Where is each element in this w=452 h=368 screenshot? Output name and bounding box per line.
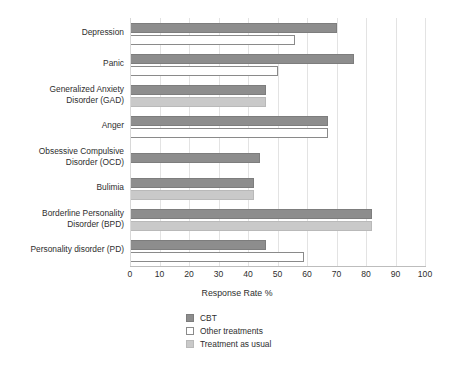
legend-label: CBT: [200, 313, 217, 323]
bar: [130, 35, 295, 45]
legend-swatch-icon: [186, 314, 194, 322]
category-label: Obsessive Compulsive Disorder (OCD): [0, 146, 124, 167]
x-tick-label: 90: [381, 269, 411, 280]
gridline-100: [425, 18, 426, 266]
category-label: Panic: [0, 58, 124, 68]
bar: [130, 240, 266, 250]
bar: [130, 178, 254, 188]
legend-label: Other treatments: [200, 326, 263, 336]
x-tick-label: 80: [351, 269, 381, 280]
x-tick-label: 60: [292, 269, 322, 280]
bar: [130, 23, 337, 33]
plot-wrapper: DepressionPanicGeneralized Anxiety Disor…: [0, 0, 452, 300]
legend-item[interactable]: Treatment as usual: [186, 337, 386, 350]
bar: [130, 209, 372, 219]
bar: [130, 116, 328, 126]
y-axis-line: [130, 18, 131, 266]
bar: [130, 66, 278, 76]
category-label: Personality disorder (PD): [0, 244, 124, 254]
response-rate-bar-chart: DepressionPanicGeneralized Anxiety Disor…: [0, 0, 452, 368]
category-label: Borderline Personality Disorder (BPD): [0, 208, 124, 229]
legend-swatch-icon: [186, 327, 194, 335]
legend-item[interactable]: CBT: [186, 311, 386, 324]
bar: [130, 85, 266, 95]
category-label: Anger: [0, 120, 124, 130]
category-label: Generalized Anxiety Disorder (GAD): [0, 84, 124, 105]
x-tick-label: 100: [410, 269, 440, 280]
x-tick-label: 0: [115, 269, 145, 280]
x-tick-label: 50: [263, 269, 293, 280]
bar: [130, 54, 354, 64]
x-tick-label: 70: [322, 269, 352, 280]
bar: [130, 221, 372, 231]
x-tick-label: 30: [204, 269, 234, 280]
bar: [130, 190, 254, 200]
x-tick-label: 20: [174, 269, 204, 280]
bar: [130, 97, 266, 107]
bar: [130, 252, 304, 262]
category-label: Depression: [0, 27, 124, 37]
bar: [130, 128, 328, 138]
legend-item[interactable]: Other treatments: [186, 324, 386, 337]
x-axis-line: [130, 266, 426, 267]
legend-swatch-icon: [186, 340, 194, 348]
legend-label: Treatment as usual: [200, 339, 271, 349]
x-tick-label: 40: [233, 269, 263, 280]
chart-legend: CBTOther treatmentsTreatment as usual: [186, 311, 386, 350]
x-axis-title-text: Response Rate %: [202, 288, 273, 298]
bar: [130, 153, 260, 163]
x-tick-label: 10: [145, 269, 175, 280]
bars-layer: [130, 18, 425, 266]
category-label: Bulimia: [0, 182, 124, 192]
x-axis-title: Response Rate %: [0, 288, 452, 298]
